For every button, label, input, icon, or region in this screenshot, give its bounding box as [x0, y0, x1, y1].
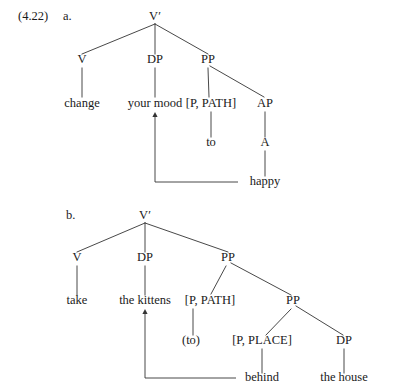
tree-b-leaf-behind: behind — [245, 370, 280, 384]
tree-b-leaf-the-kittens: the kittens — [119, 293, 171, 307]
syntax-tree-figure: (4.22)a.V′VDPPPchangeyour mood[P, PATH]A… — [0, 0, 395, 388]
tree-b-edge-pp-to-pp-inner — [231, 263, 291, 295]
tree-a-leaf-happy: happy — [250, 174, 281, 188]
tree-b-leaf-to-optional: (to) — [182, 333, 200, 347]
tree-a-movement-arrowhead — [152, 112, 157, 117]
tree-a-movement-happy-to-dp — [155, 115, 238, 182]
tree-b-leaf-take: take — [67, 293, 88, 307]
tree-a-edge-root-to-pp — [155, 24, 208, 54]
tree-b-edge-pp-inner-to-place — [266, 309, 291, 335]
tree-a-leaf-p-path: [P, PATH] — [186, 96, 236, 110]
tree-a-edge-pp-to-p-path — [208, 68, 209, 97]
tree-canvas: (4.22)a.V′VDPPPchangeyour mood[P, PATH]A… — [0, 0, 395, 388]
tree-b-leaf-p-place: [P, PLACE] — [232, 333, 292, 347]
tree-a-leaf-to: to — [206, 135, 216, 149]
tree-b-edge-pp-inner-to-dp — [296, 306, 343, 335]
tree-b-edge-pp-to-p-path — [211, 266, 226, 294]
tree-a-root-v-bar: V′ — [149, 9, 161, 23]
tree-b: b.V′VDPPPtakethe kittens[P, PATH]PP(to)[… — [66, 208, 368, 384]
tree-b-node-dp-object: DP — [336, 333, 352, 347]
tree-a-leaf-your-mood: your mood — [128, 96, 183, 110]
tree-b-node-pp-inner: PP — [286, 293, 300, 307]
tree-a-node-ap: AP — [257, 96, 273, 110]
tree-b-node-v: V — [72, 250, 81, 264]
tree-b-edge-root-to-pp — [145, 223, 228, 252]
tree-a-node-dp: DP — [147, 52, 163, 66]
tree-a-edge-pp-to-ap — [210, 66, 264, 97]
example-number-label: (4.22) — [18, 9, 48, 23]
tree-b-movement-arrowhead — [142, 309, 147, 314]
tree-b-node-pp-outer: PP — [221, 250, 235, 264]
tree-a-leaf-change: change — [64, 96, 100, 110]
tree-b-sub-label: b. — [66, 208, 75, 222]
tree-b-edge-root-to-v — [77, 223, 145, 252]
tree-b-leaf-the-house: the house — [320, 370, 368, 384]
tree-b-leaf-p-path: [P, PATH] — [185, 293, 235, 307]
tree-a-sub-label: a. — [63, 9, 72, 23]
tree-a-node-pp: PP — [201, 52, 215, 66]
tree-a-edge-root-to-v — [82, 24, 155, 54]
tree-a: a.V′VDPPPchangeyour mood[P, PATH]APtoAha… — [63, 9, 281, 188]
tree-a-node-a: A — [260, 135, 269, 149]
tree-a-node-v: V — [77, 52, 86, 66]
tree-b-node-dp-subject: DP — [137, 250, 153, 264]
tree-b-root-v-bar: V′ — [139, 208, 151, 222]
